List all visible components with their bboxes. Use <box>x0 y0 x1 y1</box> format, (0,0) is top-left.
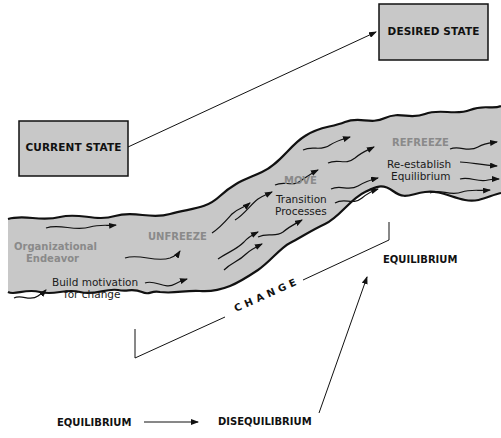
stage-unfreeze-label: UNFREEZE <box>148 231 207 242</box>
desired-state-box: DESIRED STATE <box>379 4 488 60</box>
move-desc-line2: Processes <box>275 205 327 217</box>
stage-move-label: MOVE <box>284 175 317 186</box>
unfreeze-desc-line1: Build motivation <box>52 276 138 288</box>
refreeze-desc-line2: Equilibrium <box>391 170 451 182</box>
current-state-box: CURRENT STATE <box>19 121 128 176</box>
refreeze-desc-line1: Re-establish <box>387 158 451 170</box>
equilibrium-right-label: EQUILIBRIUM <box>383 254 457 265</box>
unfreeze-desc-line2: for change <box>64 288 120 300</box>
stage-refreeze-label: REFREEZE <box>392 137 449 148</box>
desired-state-label: DESIRED STATE <box>388 25 480 37</box>
bottom-equilibrium-label: EQUILIBRIUM <box>57 417 131 428</box>
move-desc-line1: Transition <box>275 193 327 205</box>
current-state-label: CURRENT STATE <box>25 141 121 153</box>
origin-label-line2: Endeavor <box>26 253 79 264</box>
bottom-disequilibrium-label: DISEQUILIBRIUM <box>218 416 312 427</box>
disequilibrium-to-equilibrium-arrow-icon <box>319 277 367 413</box>
lewin-change-model-diagram: CURRENT STATE DESIRED STATE Organization… <box>0 0 501 438</box>
origin-label-line1: Organizational <box>14 241 97 252</box>
